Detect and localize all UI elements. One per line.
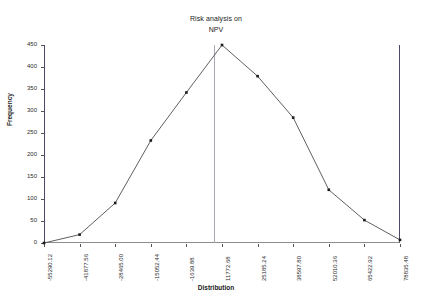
risk-analysis-chart: Risk analysis on NPV Frequency Distribut… xyxy=(0,0,432,302)
data-point-marker xyxy=(328,189,331,192)
data-point-marker xyxy=(363,219,366,222)
data-point-marker xyxy=(292,116,295,119)
data-point-marker xyxy=(114,202,117,205)
data-point-marker xyxy=(78,233,81,236)
data-point-marker xyxy=(43,242,46,245)
data-point-marker xyxy=(185,91,188,94)
data-point-marker xyxy=(399,239,402,242)
frequency-series xyxy=(0,0,432,302)
data-point-marker xyxy=(221,44,224,47)
data-point-marker xyxy=(256,75,259,78)
series-line xyxy=(44,45,400,243)
data-point-marker xyxy=(150,139,153,142)
